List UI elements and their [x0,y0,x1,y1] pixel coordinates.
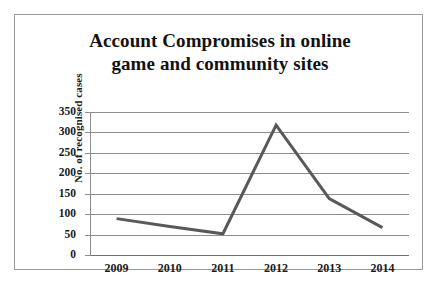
y-tick-label-250: 250 [32,147,76,158]
y-tick-label-150: 150 [32,188,76,199]
y-tick-label-200: 200 [32,167,76,178]
chart-figure: Account Compromises in online game and c… [0,0,438,285]
chart-title-line-1: Account Compromises in online [45,29,395,52]
x-axis-tick-labels: 200920102011201220132014 [90,261,409,281]
chart-title-line-2: game and community sites [45,52,395,75]
x-tick-label-2010: 2010 [143,261,197,275]
chart-title: Account Compromises in online game and c… [45,29,395,75]
x-tick-label-2009: 2009 [90,261,144,275]
data-series-line [76,97,409,256]
y-tick-label-0: 0 [32,249,76,260]
y-tick-label-100: 100 [32,208,76,219]
plot-area: No. of recognised cases 0501001502002503… [76,97,409,256]
chart-frame: Account Compromises in online game and c… [14,14,423,270]
y-tick-label-350: 350 [32,106,76,117]
x-tick-label-2013: 2013 [302,261,356,275]
y-tick-label-50: 50 [32,229,76,240]
x-tick-label-2014: 2014 [355,261,409,275]
y-tick-label-300: 300 [32,126,76,137]
x-tick-label-2011: 2011 [196,261,250,275]
x-tick-label-2012: 2012 [249,261,303,275]
y-axis-tick-labels: 050100150200250300350 [29,97,76,256]
